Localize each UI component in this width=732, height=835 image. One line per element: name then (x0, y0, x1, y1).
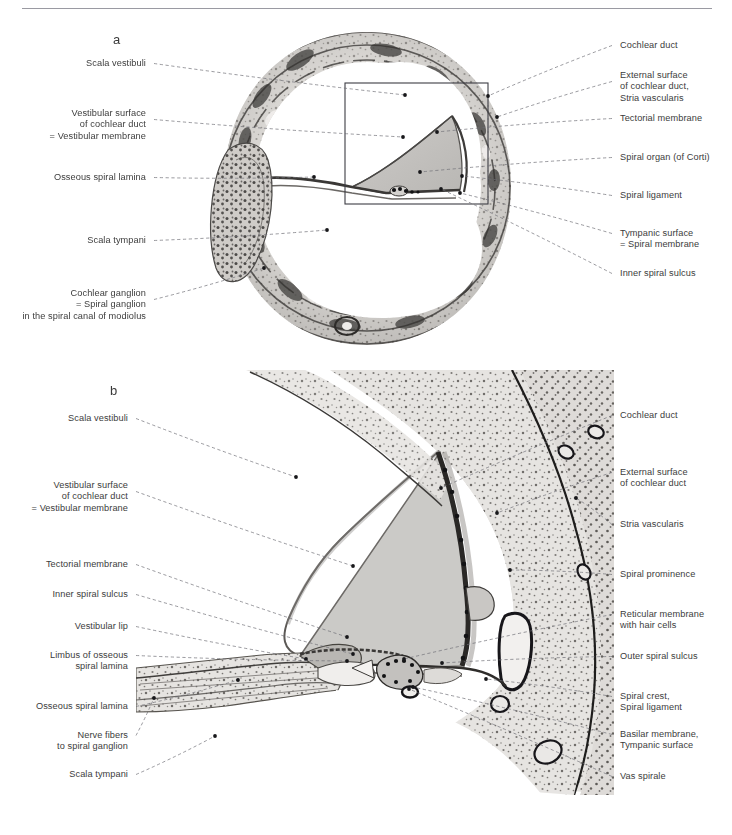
leader-vestibular-surface-of-cochlear-duct (154, 120, 403, 138)
label-basilar-membrane-tympanic-surface: Basilar membrane, Tympanic surface (620, 729, 698, 752)
label-inner-spiral-sulcus: Inner spiral sulcus (620, 268, 696, 279)
leader-tip-tympanic-surface-spiral-membrane (458, 191, 462, 195)
leader-external-surface-of-cochlear-duct (497, 473, 612, 514)
leader-scala-tympani (154, 230, 327, 241)
leader-osseous-spiral-lamina (136, 680, 238, 707)
leader-tip-scala-tympani (213, 734, 217, 738)
label-tympanic-surface-spiral-membrane: Tympanic surface = Spiral membrane (620, 228, 699, 251)
leader-vas-spirale (409, 689, 612, 777)
label-spiral-organ-of-corti: Spiral organ (of Corti) (620, 152, 710, 163)
label-spiral-crest-spiral-ligament: Spiral crest, Spiral ligament (620, 691, 682, 714)
leader-tip-inner-spiral-sulcus (439, 187, 443, 191)
leader-osseous-spiral-lamina (154, 177, 314, 178)
leader-inner-spiral-sulcus (441, 189, 612, 274)
leader-cochlear-duct (488, 46, 612, 97)
panel-a-inset-box (345, 83, 488, 204)
leader-scala-tympani (136, 736, 215, 775)
leader-tectorial-membrane (136, 565, 347, 638)
leader-spiral-organ-of-corti (420, 158, 612, 173)
leader-outer-spiral-sulcus (442, 657, 612, 664)
leader-spiral-ligament (462, 176, 612, 196)
leader-tip-inner-spiral-sulcus (351, 652, 355, 656)
leader-tympanic-surface-spiral-membrane (460, 193, 612, 234)
leader-tip-osseous-spiral-lamina (236, 678, 240, 682)
leader-tip-reticular-membrane-with-hair-cells (402, 657, 406, 661)
label-scala-tympani: Scala tympani (87, 235, 146, 246)
leader-stria-vascularis (576, 498, 612, 525)
leader-inner-spiral-sulcus (136, 595, 353, 655)
label-scala-vestibuli: Scala vestibuli (68, 413, 128, 424)
leader-cochlear-duct (441, 416, 612, 489)
leader-tip-spiral-ligament (460, 174, 464, 178)
label-vestibular-surface-of-cochlear-duct: Vestibular surface of cochlear duct = Ve… (32, 480, 128, 514)
label-cochlear-ganglion: Cochlear ganglion = Spiral ganglion in t… (22, 288, 146, 322)
leader-tip-tectorial-membrane (345, 635, 349, 639)
label-nerve-fibers-to-spiral-ganglion: Nerve fibers to spiral ganglion (57, 730, 128, 753)
leader-tectorial-membrane (437, 119, 612, 133)
label-osseous-spiral-lamina: Osseous spiral lamina (36, 701, 128, 712)
leader-tip-spiral-prominence (508, 568, 512, 572)
label-inner-spiral-sulcus: Inner spiral sulcus (52, 589, 128, 600)
leader-vestibular-lip (136, 627, 306, 660)
leader-tip-vas-spirale (407, 687, 411, 691)
leader-tip-spiral-organ-of-corti (418, 170, 422, 174)
leader-tip-vestibular-surface-of-cochlear-duct (401, 135, 405, 139)
leader-tip-outer-spiral-sulcus (440, 661, 444, 665)
leader-cochlear-ganglion (154, 268, 264, 300)
leader-spiral-prominence (510, 570, 612, 575)
leader-tip-limbus-of-osseous-spiral-lamina (345, 659, 349, 663)
label-cochlear-duct: Cochlear duct (620, 410, 678, 421)
label-vas-spirale: Vas spirale (620, 771, 666, 782)
leader-tip-cochlear-duct (486, 94, 490, 98)
leader-spiral-crest-spiral-ligament (486, 679, 612, 697)
panel-b-histology-image (136, 358, 614, 795)
label-spiral-prominence: Spiral prominence (620, 569, 695, 580)
panel-a-histology-image (207, 28, 527, 348)
leader-tip-osseous-spiral-lamina (312, 175, 316, 179)
panel-a-letter: a (113, 32, 121, 47)
label-vestibular-surface-of-cochlear-duct: Vestibular surface of cochlear duct = Ve… (50, 108, 146, 142)
leader-tip-scala-tympani (325, 228, 329, 232)
leader-nerve-fibers-to-spiral-ganglion (136, 698, 154, 736)
leader-tip-basilar-membrane-tympanic-surface (411, 685, 415, 689)
leader-scala-vestibuli (136, 419, 296, 478)
label-external-surface-of-cochlear-duct: External surface of cochlear duct (620, 467, 688, 490)
leader-limbus-of-osseous-spiral-lamina (136, 656, 347, 662)
figure-page: Scala vestibuliVestibular surface of coc… (0, 0, 732, 835)
label-vestibular-lip: Vestibular lip (75, 621, 128, 632)
leader-tip-cochlear-duct (439, 486, 443, 490)
leader-tip-vestibular-surface-of-cochlear-duct (351, 564, 355, 568)
label-reticular-membrane-with-hair-cells: Reticular membrane with hair cells (620, 609, 704, 632)
leader-tip-vestibular-lip (304, 657, 308, 661)
label-limbus-of-osseous-spiral-lamina: Limbus of osseous spiral lamina (50, 650, 128, 673)
leader-reticular-membrane-with-hair-cells (404, 615, 612, 660)
label-tectorial-membrane: Tectorial membrane (46, 559, 128, 570)
leader-tip-spiral-crest-spiral-ligament (484, 677, 488, 681)
panel-b-letter: b (110, 383, 118, 398)
label-scala-vestibuli: Scala vestibuli (86, 58, 146, 69)
leader-tip-stria-vascularis (574, 496, 578, 500)
leader-external-surface-stria-vascularis (497, 82, 612, 118)
leader-tip-external-surface-stria-vascularis (495, 115, 499, 119)
label-outer-spiral-sulcus: Outer spiral sulcus (620, 651, 698, 662)
label-tectorial-membrane: Tectorial membrane (620, 113, 702, 124)
leader-basilar-membrane-tympanic-surface (413, 687, 612, 735)
label-stria-vascularis: Stria vascularis (620, 519, 684, 530)
leader-tip-cochlear-ganglion (262, 266, 266, 270)
leader-tip-scala-vestibuli (403, 93, 407, 97)
leader-tip-tectorial-membrane (435, 130, 439, 134)
label-external-surface-stria-vascularis: External surface of cochlear duct, Stria… (620, 70, 689, 104)
leader-tip-scala-vestibuli (294, 475, 298, 479)
leader-lines (136, 46, 612, 777)
leader-vestibular-surface-of-cochlear-duct (136, 492, 353, 567)
leader-tip-nerve-fibers-to-spiral-ganglion (152, 696, 156, 700)
label-osseous-spiral-lamina: Osseous spiral lamina (54, 172, 146, 183)
top-rule (22, 8, 712, 9)
label-spiral-ligament: Spiral ligament (620, 190, 682, 201)
leader-scala-vestibuli (154, 64, 405, 96)
leader-tip-external-surface-of-cochlear-duct (495, 511, 499, 515)
label-cochlear-duct: Cochlear duct (620, 40, 678, 51)
panel-a-cochlear-chambers (211, 62, 482, 318)
label-scala-tympani: Scala tympani (69, 769, 128, 780)
